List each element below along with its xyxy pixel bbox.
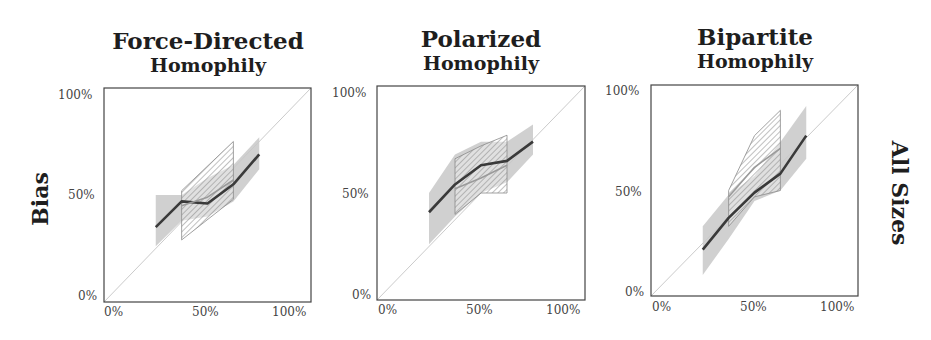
panel-force-directed bbox=[104, 88, 311, 302]
panel-bipartite bbox=[651, 85, 858, 296]
panel-polarized bbox=[377, 86, 585, 300]
plots-canvas bbox=[0, 0, 931, 340]
hatched-confidence-band bbox=[455, 135, 507, 214]
